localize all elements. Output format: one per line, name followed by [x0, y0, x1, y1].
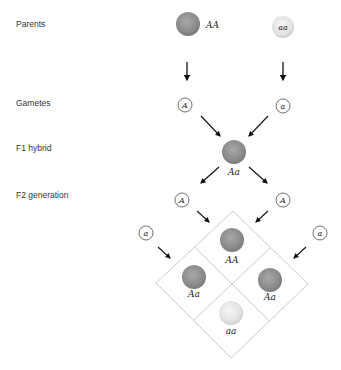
f2-gamete-top-right: A	[276, 193, 290, 207]
svg-text:a: a	[281, 102, 286, 111]
svg-text:AA: AA	[225, 255, 239, 265]
svg-text:A: A	[181, 101, 188, 110]
arrow-diagonal-icon	[249, 167, 267, 183]
f2-gamete-side-right: a	[313, 226, 327, 240]
sphere-icon	[182, 265, 206, 289]
arrow-diagonal-icon	[158, 247, 170, 258]
punnett-cell-bottom: aa	[219, 301, 243, 336]
punnett-cell-right: Aa	[258, 268, 282, 302]
gamete-left: A	[178, 98, 192, 112]
arrow-diagonal-icon	[256, 211, 268, 222]
sphere-icon	[222, 140, 246, 164]
punnett-cell-left: Aa	[182, 265, 206, 299]
svg-text:Aa: Aa	[263, 292, 276, 302]
parent-dominant: AA	[176, 12, 219, 36]
genotype-label: AA	[205, 20, 219, 30]
gamete-right: a	[276, 99, 290, 113]
svg-text:Aa: Aa	[187, 289, 200, 299]
punnett-cell-top: AA	[220, 228, 244, 265]
svg-text:a: a	[144, 229, 149, 238]
arrow-diagonal-icon	[201, 167, 219, 183]
parent-recessive: aa	[272, 16, 294, 38]
arrow-diagonal-icon	[294, 247, 306, 258]
arrow-diagonal-icon	[197, 211, 209, 222]
f2-gamete-top-left: A	[175, 193, 189, 207]
sphere-icon	[258, 268, 282, 292]
svg-text:a: a	[318, 229, 323, 238]
genotype-label: Aa	[227, 167, 240, 177]
arrow-diagonal-icon	[249, 116, 268, 136]
sphere-icon	[176, 12, 200, 36]
sphere-icon	[220, 228, 244, 252]
cross-diagram: AA aa A a Aa A A a a	[0, 0, 341, 370]
svg-text:aa: aa	[226, 326, 237, 336]
sphere-icon	[219, 301, 243, 325]
svg-text:A: A	[178, 196, 185, 205]
genotype-label: aa	[278, 23, 288, 32]
f2-gamete-side-left: a	[139, 226, 153, 240]
f1-hybrid: Aa	[222, 140, 246, 177]
arrow-diagonal-icon	[201, 116, 220, 136]
svg-text:A: A	[279, 196, 286, 205]
